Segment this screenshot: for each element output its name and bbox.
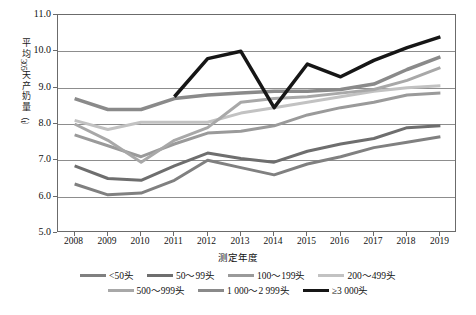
legend-label: 500～999头 bbox=[137, 286, 186, 296]
series-line-0 bbox=[75, 137, 441, 195]
legend-item[interactable]: ≥3 000头 bbox=[303, 286, 369, 296]
legend-item[interactable]: 1 000～2 999头 bbox=[198, 286, 290, 296]
y-tick-label-5.0: 5.0 bbox=[17, 227, 51, 237]
legend-label: 200～499头 bbox=[347, 271, 396, 281]
legend-swatch-icon bbox=[147, 274, 173, 277]
y-tick-label-10.0: 10.0 bbox=[17, 45, 51, 55]
legend-row-1: <50头50～99头100～199头200～499头 bbox=[0, 268, 476, 283]
legend-label: 1 000～2 999头 bbox=[227, 286, 290, 296]
legend: <50头50～99头100～199头200～499头 500～999头1 000… bbox=[0, 268, 476, 298]
y-tick-label-6.0: 6.0 bbox=[17, 191, 51, 201]
legend-item[interactable]: 100～199头 bbox=[228, 271, 306, 281]
legend-label: ≥3 000头 bbox=[332, 286, 369, 296]
legend-row-2: 500～999头1 000～2 999头≥3 000头 bbox=[0, 283, 476, 298]
series-lines bbox=[58, 15, 457, 233]
line-chart: 平 均 305 天 产 奶 量 （t） 11.010.09.08.07.06.0… bbox=[0, 0, 476, 315]
x-axis-title: 测定年度 bbox=[0, 250, 476, 264]
y-tick-label-11.0: 11.0 bbox=[17, 9, 51, 19]
legend-label: 50～99头 bbox=[176, 271, 215, 281]
y-tick-label-9.0: 9.0 bbox=[17, 82, 51, 92]
plot-area bbox=[57, 14, 456, 232]
y-title-number: 305 bbox=[18, 59, 29, 70]
legend-label: 100～199头 bbox=[257, 271, 306, 281]
y-title-char-4: 奶 bbox=[18, 91, 34, 102]
legend-swatch-icon bbox=[318, 274, 344, 277]
x-tick-label-2019: 2019 bbox=[419, 236, 459, 246]
legend-item[interactable]: <50头 bbox=[80, 271, 134, 281]
legend-swatch-icon bbox=[228, 274, 254, 277]
y-tick-label-8.0: 8.0 bbox=[17, 118, 51, 128]
legend-swatch-icon bbox=[303, 289, 329, 293]
legend-item[interactable]: 50～99头 bbox=[147, 271, 215, 281]
legend-label: <50头 bbox=[109, 271, 134, 281]
y-title-char-2: 天 bbox=[18, 70, 34, 81]
y-tick-label-7.0: 7.0 bbox=[17, 154, 51, 164]
legend-swatch-icon bbox=[80, 274, 106, 277]
legend-item[interactable]: 500～999头 bbox=[108, 286, 186, 296]
y-tick-mark-5.0 bbox=[53, 232, 57, 233]
legend-swatch-icon bbox=[108, 289, 134, 292]
y-title-char-5: 量 bbox=[18, 102, 34, 113]
legend-item[interactable]: 200～499头 bbox=[318, 271, 396, 281]
legend-swatch-icon bbox=[198, 289, 224, 293]
